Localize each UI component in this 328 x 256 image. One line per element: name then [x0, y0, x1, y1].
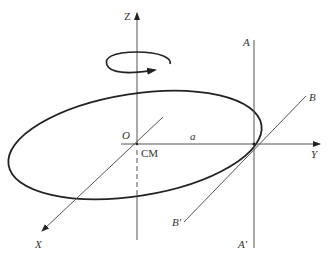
x-axis-label: X	[34, 238, 43, 250]
z-axis-label: Z	[124, 10, 131, 22]
line-b-top-label: B	[309, 91, 316, 103]
line-bb-prime	[184, 96, 306, 222]
line-a-top-label: A	[242, 36, 250, 48]
line-b-bottom-label: B′	[172, 216, 182, 228]
origin-point	[136, 143, 138, 145]
contact-point	[252, 142, 255, 145]
disk-ellipse	[1, 75, 270, 216]
radius-label: a	[190, 130, 196, 142]
y-axis-label: Y	[311, 148, 319, 160]
x-axis	[42, 117, 163, 231]
origin-label: O	[122, 129, 130, 141]
line-a-bottom-label: A′	[237, 238, 248, 250]
disk-axes-diagram: Z Y X O CM a A A′ B B′	[0, 0, 328, 256]
cm-label: CM	[141, 147, 158, 159]
rotation-arrow-icon	[106, 52, 170, 72]
